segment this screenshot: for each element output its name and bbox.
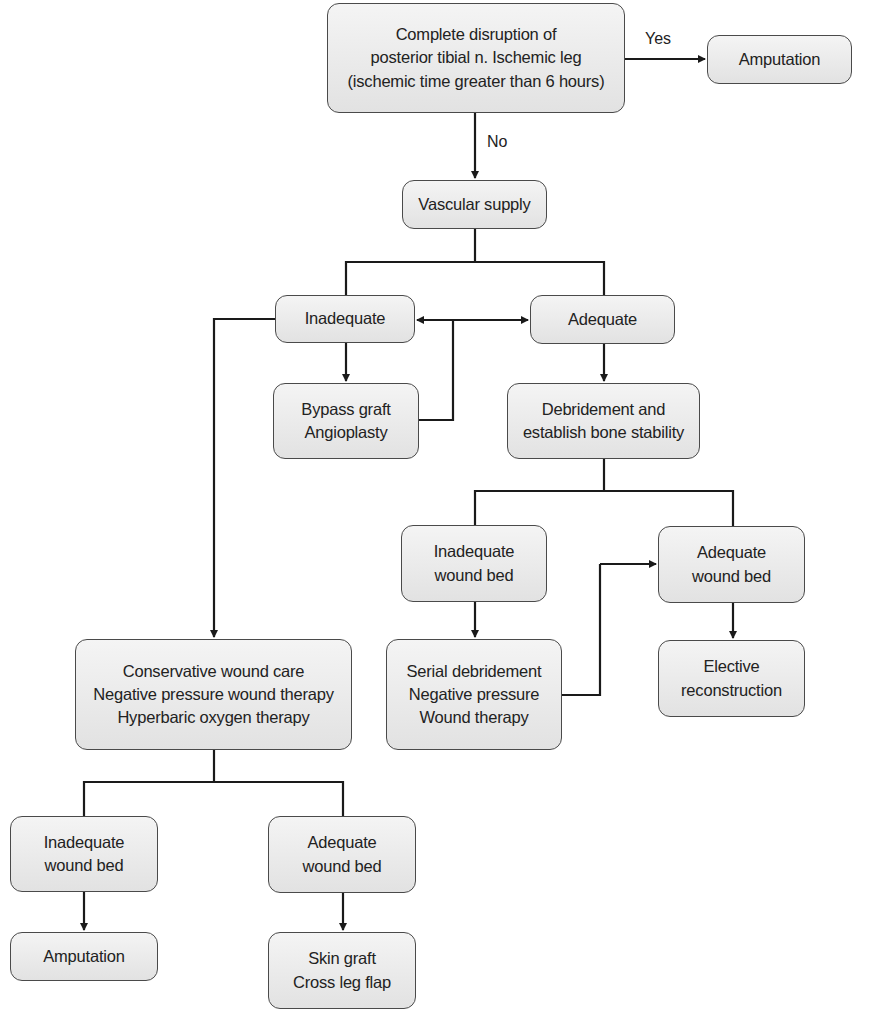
edge-label-no: No xyxy=(487,133,507,151)
node-text: Negative pressure xyxy=(409,683,540,706)
node-text: Angioplasty xyxy=(304,421,387,444)
node-serial-debridement: Serial debridement Negative pressure Wou… xyxy=(386,639,562,750)
node-inadequate: Inadequate xyxy=(275,295,415,343)
node-debridement: Debridement and establish bone stability xyxy=(507,383,700,459)
node-text: posterior tibial n. Ischemic leg xyxy=(371,46,582,69)
node-text: Adequate xyxy=(307,831,376,854)
node-inadequate-wound-bed-mid: Inadequate wound bed xyxy=(401,525,547,602)
node-text: Debridement and xyxy=(542,398,666,421)
node-text: Adequate xyxy=(697,541,766,564)
node-text: Amputation xyxy=(43,945,124,968)
node-text: Bypass graft xyxy=(301,398,390,421)
edge-label-yes: Yes xyxy=(645,30,671,48)
node-text: Vascular supply xyxy=(418,193,530,216)
node-text: Cross leg flap xyxy=(293,971,391,994)
node-text: Inadequate xyxy=(44,831,125,854)
node-text: Conservative wound care xyxy=(123,660,305,683)
node-text: Amputation xyxy=(739,48,820,71)
node-adequate-wound-bed-bottom: Adequate wound bed xyxy=(268,816,416,893)
node-text: Elective xyxy=(703,655,759,678)
node-text: Hyperbaric oxygen therapy xyxy=(117,706,309,729)
node-text: Negative pressure wound therapy xyxy=(93,683,334,706)
node-root-ischemic-leg: Complete disruption of posterior tibial … xyxy=(327,3,625,113)
node-text: Serial debridement xyxy=(407,660,542,683)
node-skin-graft: Skin graft Cross leg flap xyxy=(268,932,416,1009)
node-elective-reconstruction: Elective reconstruction xyxy=(658,640,805,717)
node-conservative-wound-care: Conservative wound care Negative pressur… xyxy=(75,639,352,750)
node-vascular-supply: Vascular supply xyxy=(402,180,547,229)
node-text: wound bed xyxy=(435,564,514,587)
node-text: Wound therapy xyxy=(419,706,528,729)
node-text: wound bed xyxy=(45,854,124,877)
node-text: wound bed xyxy=(303,855,382,878)
node-text: Inadequate xyxy=(434,540,515,563)
node-text: reconstruction xyxy=(681,679,782,702)
node-text: Inadequate xyxy=(305,307,386,330)
node-text: wound bed xyxy=(692,565,771,588)
node-amputation-top: Amputation xyxy=(707,35,852,84)
node-adequate: Adequate xyxy=(530,295,675,344)
node-text: Adequate xyxy=(568,308,637,331)
node-text: Skin graft xyxy=(308,947,376,970)
node-text: (ischemic time greater than 6 hours) xyxy=(348,70,605,93)
node-inadequate-wound-bed-bottom: Inadequate wound bed xyxy=(10,816,158,892)
node-adequate-wound-bed-right: Adequate wound bed xyxy=(658,526,805,603)
node-text: establish bone stability xyxy=(523,421,684,444)
node-text: Complete disruption of xyxy=(396,23,557,46)
node-amputation-bottom: Amputation xyxy=(10,932,158,981)
node-bypass-graft: Bypass graft Angioplasty xyxy=(273,383,419,459)
